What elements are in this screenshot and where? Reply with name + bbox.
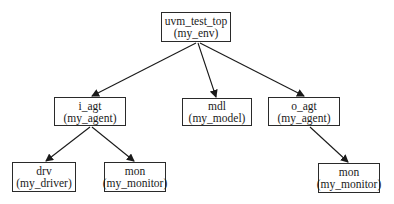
node-i-agt: i_agt (my_agent) [54, 97, 126, 126]
node-type: (my_env) [174, 27, 219, 39]
node-type: (my_monitor) [103, 177, 168, 189]
edge-top-to-i-agt [92, 43, 196, 96]
node-name: mon [125, 165, 145, 177]
edge-i-agt-to-drv [46, 127, 90, 161]
node-mon-input: mon (my_monitor) [104, 162, 166, 192]
node-name: mdl [208, 100, 226, 112]
node-name: i_agt [79, 100, 102, 112]
node-name: uvm_test_top [165, 15, 228, 27]
node-type: (my_agent) [63, 112, 116, 124]
node-type: (my_agent) [277, 112, 330, 124]
edge-o-agt-to-mon [310, 127, 348, 162]
node-o-agt: o_agt (my_agent) [268, 97, 340, 126]
node-name: o_agt [291, 100, 317, 112]
node-type: (my_model) [189, 112, 246, 124]
edge-top-to-mdl [198, 43, 216, 97]
node-name: drv [36, 165, 51, 177]
node-mon-output: mon (my_monitor) [318, 163, 380, 193]
node-uvm-test-top: uvm_test_top (my_env) [161, 12, 231, 42]
edge-i-agt-to-mon [92, 127, 134, 161]
node-name: mon [339, 166, 359, 178]
node-mdl: mdl (my_model) [182, 98, 252, 126]
edge-top-to-o-agt [200, 43, 304, 96]
node-type: (my_monitor) [317, 178, 382, 190]
node-type: (my_driver) [16, 177, 72, 189]
node-drv: drv (my_driver) [12, 162, 76, 192]
